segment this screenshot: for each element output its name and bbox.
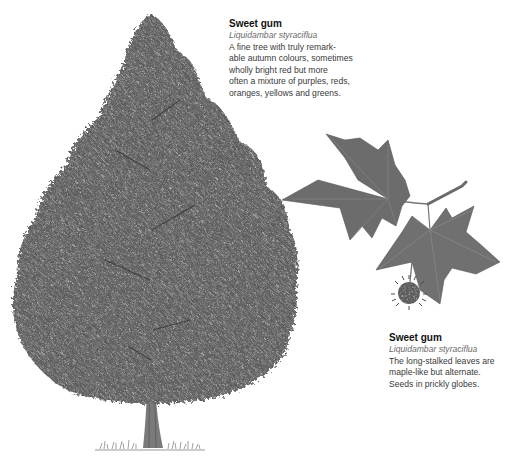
- large-leaf: [282, 134, 410, 240]
- leaf-caption: Sweet gum Liquidambar styraciflua The lo…: [389, 332, 506, 390]
- leaf-caption-line: maple-like but alternate.: [389, 367, 506, 379]
- tree-caption-line: able autumn colours, sometimes: [229, 53, 379, 65]
- tree-caption-line: oranges, yellows and greens.: [229, 88, 379, 100]
- tree-caption-line: A fine tree with truly remark-: [229, 42, 379, 54]
- leaf-caption-latin-name: Liquidambar styraciflua: [389, 344, 506, 356]
- tree-caption-latin-name: Liquidambar styraciflua: [229, 30, 379, 42]
- tree-caption-title: Sweet gum: [229, 18, 379, 30]
- leaf-caption-title: Sweet gum: [389, 332, 506, 344]
- tree-caption-line: wholly bright red but more: [229, 65, 379, 77]
- tree-caption: Sweet gum Liquidambar styraciflua A fine…: [229, 18, 379, 100]
- twig: [428, 182, 466, 204]
- sweet-gum-leaf-spray: [282, 134, 500, 310]
- leaf-caption-line: Seeds in prickly globes.: [389, 379, 506, 391]
- tree-caption-line: often a mixture of purples, reds,: [229, 76, 379, 88]
- leaf-caption-line: The long-stalked leaves are: [389, 356, 506, 368]
